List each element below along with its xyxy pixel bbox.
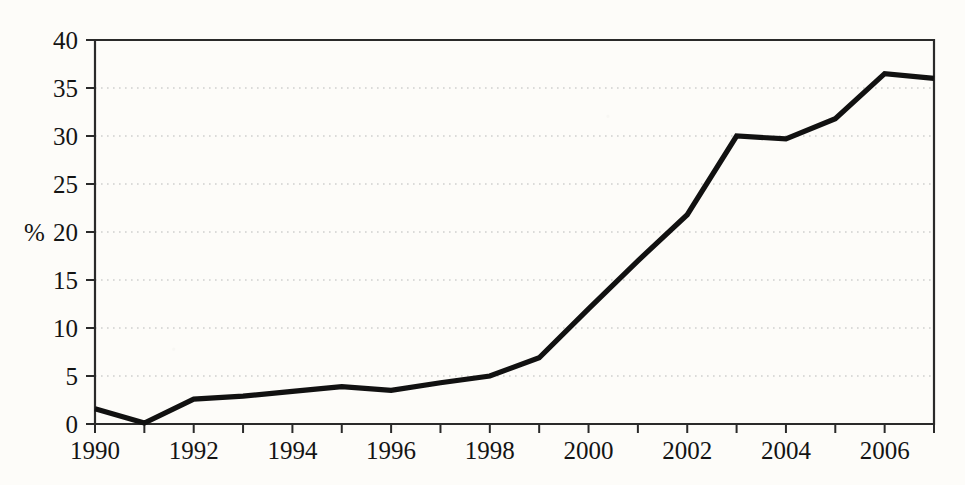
y-axis-tick-labels-group: 0510152025303540: [53, 27, 78, 438]
x-tick-label-1990: 1990: [70, 437, 120, 464]
y-tick-label-15: 15: [53, 267, 78, 294]
y-axis-ticks-group: [86, 40, 95, 424]
data-series-line: [95, 74, 934, 423]
y-tick-label-5: 5: [66, 363, 79, 390]
x-tick-label-1994: 1994: [267, 437, 318, 464]
y-tick-label-0: 0: [66, 411, 79, 438]
x-axis-ticks-group: [95, 424, 934, 433]
x-tick-label-2006: 2006: [860, 437, 910, 464]
y-tick-label-40: 40: [53, 27, 78, 54]
y-tick-label-10: 10: [53, 315, 78, 342]
chart-figure: 0510152025303540 19901992199419961998200…: [0, 0, 965, 485]
y-tick-label-35: 35: [53, 75, 78, 102]
x-tick-label-2002: 2002: [662, 437, 712, 464]
x-tick-label-1998: 1998: [465, 437, 515, 464]
x-tick-label-2000: 2000: [564, 437, 614, 464]
x-tick-label-1996: 1996: [366, 437, 416, 464]
line-chart-canvas: 0510152025303540 19901992199419961998200…: [0, 0, 965, 485]
x-tick-label-1992: 1992: [169, 437, 219, 464]
x-tick-label-2004: 2004: [761, 437, 812, 464]
x-axis-tick-labels-group: 199019921994199619982000200220042006: [70, 437, 910, 464]
y-tick-label-20: 20: [53, 219, 78, 246]
y-axis-title: %: [24, 219, 45, 246]
y-tick-label-25: 25: [53, 171, 78, 198]
y-tick-label-30: 30: [53, 123, 78, 150]
